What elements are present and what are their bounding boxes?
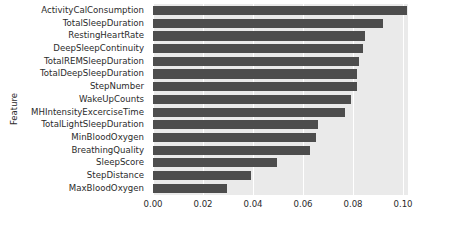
y-tick-label: TotalLightSleepDuration bbox=[0, 120, 149, 129]
bar bbox=[153, 82, 357, 91]
bar bbox=[153, 158, 277, 167]
bar bbox=[153, 108, 345, 117]
y-tick-label: ActivityCalConsumption bbox=[0, 6, 149, 15]
bar-row bbox=[153, 184, 408, 193]
bar bbox=[153, 6, 407, 15]
bar-row bbox=[153, 19, 408, 28]
x-tick-label: 0.02 bbox=[193, 199, 212, 209]
bar-row bbox=[153, 146, 408, 155]
y-tick-label: TotalSleepDuration bbox=[0, 19, 149, 28]
bar bbox=[153, 69, 357, 78]
y-axis-tick-labels: ActivityCalConsumptionTotalSleepDuration… bbox=[0, 4, 149, 195]
bar bbox=[153, 57, 359, 66]
bar-row bbox=[153, 108, 408, 117]
x-axis-tick-labels: 0.000.020.040.060.080.10 bbox=[153, 199, 408, 215]
bar bbox=[153, 31, 365, 40]
y-tick-label: MaxBloodOxygen bbox=[0, 184, 149, 193]
bar-row bbox=[153, 120, 408, 129]
bar-row bbox=[153, 44, 408, 53]
bar bbox=[153, 44, 363, 53]
bar-row bbox=[153, 69, 408, 78]
y-tick-label: MHIntensityExcerciseTime bbox=[0, 108, 149, 117]
bar bbox=[153, 19, 383, 28]
x-tick-label: 0.10 bbox=[393, 199, 412, 209]
y-tick-label: TotalREMSleepDuration bbox=[0, 57, 149, 66]
y-tick-label: StepNumber bbox=[0, 82, 149, 91]
bar-row bbox=[153, 158, 408, 167]
y-tick-label: SleepScore bbox=[0, 158, 149, 167]
feature-importance-bar-chart: Feature ActivityCalConsumptionTotalSleep… bbox=[0, 0, 451, 231]
x-tick-label: 0.08 bbox=[343, 199, 362, 209]
y-tick-label: WakeUpCounts bbox=[0, 95, 149, 104]
bar-row bbox=[153, 171, 408, 180]
bar bbox=[153, 146, 310, 155]
y-tick-label: DeepSleepContinuity bbox=[0, 44, 149, 53]
y-tick-label: BreathingQuality bbox=[0, 146, 149, 155]
bar-row bbox=[153, 31, 408, 40]
y-tick-label: TotalDeepSleepDuration bbox=[0, 69, 149, 78]
bar-row bbox=[153, 57, 408, 66]
bar bbox=[153, 171, 251, 180]
bar bbox=[153, 95, 351, 104]
bar bbox=[153, 120, 318, 129]
y-tick-label: StepDistance bbox=[0, 171, 149, 180]
x-tick-label: 0.06 bbox=[293, 199, 312, 209]
bar bbox=[153, 133, 316, 142]
x-tick-label: 0.04 bbox=[243, 199, 262, 209]
y-tick-label: MinBloodOxygen bbox=[0, 133, 149, 142]
x-tick-label: 0.00 bbox=[143, 199, 162, 209]
bar-row bbox=[153, 95, 408, 104]
bar-series bbox=[153, 4, 408, 195]
y-tick-label: RestingHeartRate bbox=[0, 31, 149, 40]
bar-row bbox=[153, 133, 408, 142]
bar-row bbox=[153, 6, 408, 15]
bar bbox=[153, 184, 227, 193]
bar-row bbox=[153, 82, 408, 91]
plot-area bbox=[153, 4, 408, 195]
